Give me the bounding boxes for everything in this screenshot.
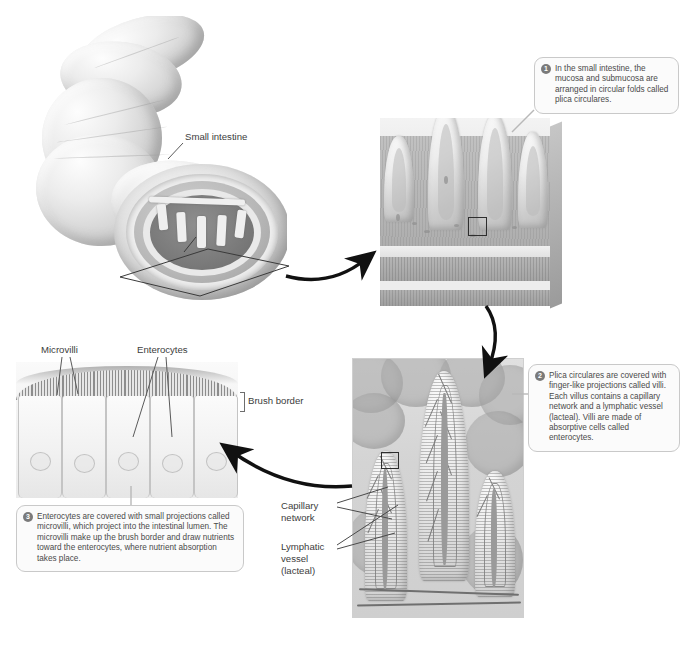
callout-microvilli: 3 Enterocytes are covered with small pro…: [16, 505, 244, 572]
callout-text: Enterocytes are covered with small proje…: [37, 512, 235, 564]
callout-villi: 2 Plica circulares are covered with fing…: [528, 364, 680, 452]
callout-number-badge: 2: [535, 371, 545, 381]
callout-plica-circulares: 1 In the small intestine, the mucosa and…: [534, 57, 679, 114]
callout-text: Plica circulares are covered with finger…: [549, 371, 671, 444]
callout-number-badge: 1: [541, 64, 551, 74]
callout-number-badge: 3: [23, 512, 33, 522]
figure-canvas: Small intestine: [0, 0, 685, 655]
callout-text: In the small intestine, the mucosa and s…: [555, 64, 670, 106]
